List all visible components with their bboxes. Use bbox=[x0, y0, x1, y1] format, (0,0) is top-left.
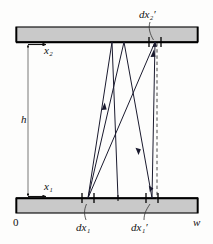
ray-dx1-to-top-left bbox=[88, 42, 112, 198]
bottom-plate-body bbox=[16, 198, 198, 213]
label-x2: x₂ bbox=[44, 45, 53, 56]
label-leader-lines bbox=[85, 22, 154, 220]
label-origin: 0 bbox=[13, 217, 19, 228]
label-h: h bbox=[21, 114, 27, 125]
label-x1: x₁ bbox=[44, 181, 53, 192]
label-width: w bbox=[193, 217, 200, 228]
ray-top-left-to-bottom-mid bbox=[112, 42, 118, 198]
plate-ray-diagram bbox=[0, 0, 213, 244]
ray-dx1-to-dx2prime bbox=[88, 42, 155, 198]
ray-dx1-to-top-mid bbox=[88, 42, 124, 198]
ray-arrowhead-down-mid bbox=[136, 148, 141, 155]
ray-top-mid-to-dx1prime bbox=[124, 42, 152, 198]
figure-canvas: x₂ x₁ h 0 w dx₁ dx₁′ dx₂′ bbox=[0, 0, 213, 244]
top-plate bbox=[16, 27, 198, 42]
ray-direction-arrowheads bbox=[102, 42, 158, 192]
label-dx1: dx₁ bbox=[76, 222, 90, 233]
label-dx1-prime: dx₁′ bbox=[131, 222, 148, 233]
bottom-plate bbox=[16, 198, 198, 213]
ray-bundle bbox=[88, 42, 155, 198]
label-dx2-prime: dx₂′ bbox=[139, 9, 156, 20]
top-plate-body bbox=[16, 27, 198, 42]
ray-dx1prime-to-dx2prime bbox=[152, 42, 155, 198]
